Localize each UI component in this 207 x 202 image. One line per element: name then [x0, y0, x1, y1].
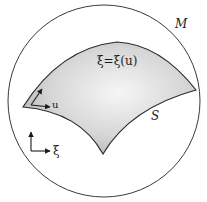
- map-label: ξ=ξ(u): [97, 55, 137, 67]
- ambient-frame: [31, 132, 50, 151]
- local-coord-label: u: [52, 100, 58, 110]
- surface-label: S: [151, 110, 159, 122]
- ambient-coord-label: ξ: [53, 145, 60, 157]
- manifold-label: M: [175, 18, 187, 30]
- diagram-canvas: M ξ=ξ(u) S u ξ: [0, 0, 207, 202]
